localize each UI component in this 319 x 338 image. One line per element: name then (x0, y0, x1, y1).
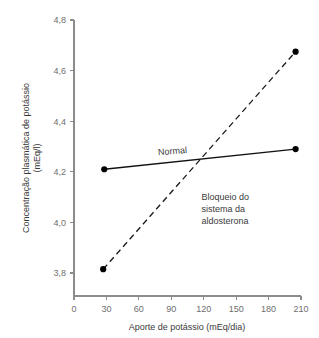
x-tick-label: 60 (134, 304, 144, 314)
chart-annotations: Normal Bloqueio dosistema daaldosterona (158, 145, 249, 226)
blockade-label-line: sistema da (202, 204, 246, 214)
y-tick-label: 4,4 (53, 117, 66, 127)
x-axis-tick-labels: 0306090120150180210 (71, 304, 308, 314)
blockade-label-line: aldosterona (202, 216, 249, 226)
data-point-marker (100, 266, 106, 272)
x-tick-label: 180 (261, 304, 276, 314)
x-tick-label: 120 (196, 304, 211, 314)
x-tick-label: 30 (101, 304, 111, 314)
y-tick-label: 4,6 (53, 66, 66, 76)
y-tick-label: 4,8 (53, 15, 66, 25)
y-tick-label: 3,8 (53, 268, 66, 278)
y-axis: 3,84,04,24,44,64,8 (53, 15, 74, 296)
x-tick-label: 150 (229, 304, 244, 314)
blockade-label-line: Bloqueio do (202, 192, 250, 202)
data-point-marker (101, 166, 107, 172)
y-axis-title-line-1: Concentração plasmática de potássio (21, 83, 31, 233)
x-axis-title: Aporte de potássio (mEq/dia) (129, 322, 246, 332)
series-normal-line (104, 149, 295, 169)
potassium-concentration-chart: 3,84,04,24,44,64,8 0306090120150180210 N… (0, 0, 319, 338)
plot-series (100, 49, 299, 273)
y-axis-title-line-2: (mEq/l) (32, 143, 42, 172)
chart-figure: 3,84,04,24,44,64,8 0306090120150180210 N… (0, 0, 319, 338)
x-tick-label: 90 (166, 304, 176, 314)
x-axis: 0306090120150180210 (71, 296, 308, 314)
x-tick-label: 210 (293, 304, 308, 314)
data-point-marker (292, 49, 298, 55)
y-tick-label: 4,2 (53, 167, 66, 177)
y-axis-tick-labels: 3,84,04,24,44,64,8 (53, 15, 66, 278)
data-point-marker (292, 146, 298, 152)
x-tick-label: 0 (71, 304, 76, 314)
y-tick-label: 4,0 (53, 218, 66, 228)
blockade-series-label: Bloqueio dosistema daaldosterona (202, 192, 250, 226)
series-blockade-line (103, 52, 295, 270)
normal-series-label: Normal (158, 145, 188, 157)
